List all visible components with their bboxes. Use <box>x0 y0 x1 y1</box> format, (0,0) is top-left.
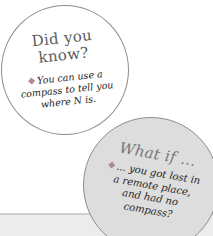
did-you-know-title: Did you know? <box>0 24 127 71</box>
did-you-know-content: Did you know? You can use a compass to t… <box>0 24 132 115</box>
did-you-know-bubble: Did you know? You can use a compass to t… <box>1 5 129 135</box>
diamond-bullet-icon <box>108 162 115 169</box>
diamond-bullet-icon <box>28 78 35 85</box>
what-if-bubble: What if ... ... you got lost in a remote… <box>83 117 213 236</box>
what-if-content: What if ... ... you got lost in a remote… <box>87 136 213 227</box>
did-you-know-text: You can use a compass to tell you where … <box>3 65 132 114</box>
